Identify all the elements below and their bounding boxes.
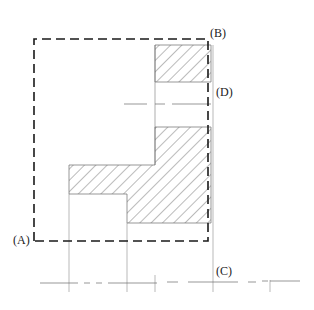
label-d: (D) [216, 86, 233, 98]
baseline-c [40, 281, 300, 283]
label-b: (B) [210, 27, 226, 39]
label-a: (A) [13, 234, 30, 246]
hatched-lower-section [69, 127, 211, 223]
label-c: (C) [216, 265, 232, 277]
section-diagram [0, 0, 314, 310]
hatched-upper-block [155, 45, 211, 82]
